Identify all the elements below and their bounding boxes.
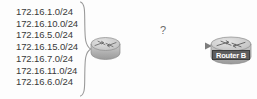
link-annotation-question: ?: [155, 24, 171, 36]
network-diagram-canvas: 172.16.1.0/24 172.16.10.0/24 172.16.5.0/…: [0, 0, 257, 99]
list-item: 172.16.5.0/24: [16, 29, 82, 41]
list-item: 172.16.6.0/24: [16, 76, 82, 88]
list-item: 172.16.7.0/24: [16, 53, 82, 65]
list-item: 172.16.15.0/24: [16, 41, 82, 53]
list-item: 172.16.1.0/24: [16, 6, 82, 18]
router-b-node[interactable]: Router B: [209, 34, 253, 67]
router-b-label: Router B: [212, 50, 250, 60]
router-icon: [89, 33, 122, 63]
network-link: [117, 40, 215, 58]
router-a-node[interactable]: [89, 33, 122, 63]
list-item: 172.16.11.0/24: [16, 65, 82, 77]
list-item: 172.16.10.0/24: [16, 18, 82, 30]
network-address-list: 172.16.1.0/24 172.16.10.0/24 172.16.5.0/…: [16, 6, 82, 88]
